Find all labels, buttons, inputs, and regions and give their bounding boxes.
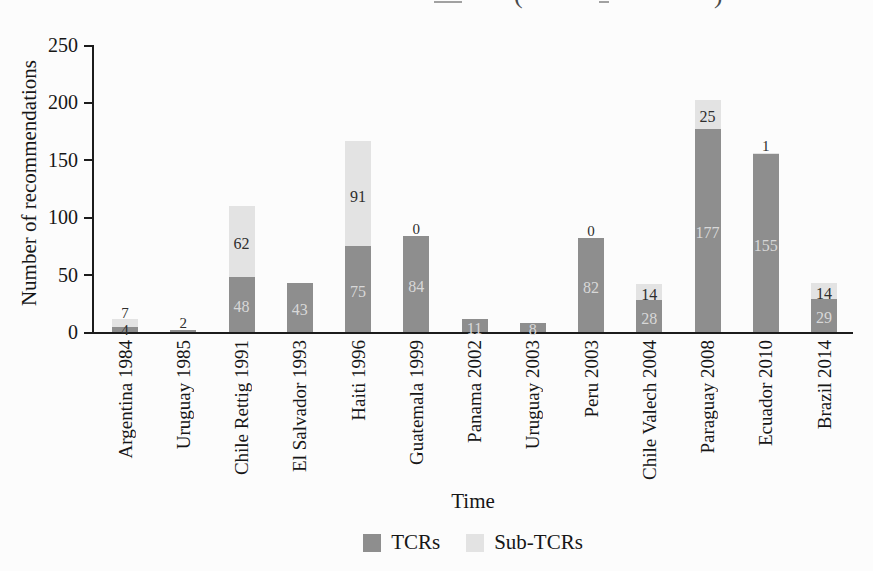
cropped-title-fragments: () bbox=[0, 0, 873, 9]
value-label-tcrs-guatemala-1999: 84 bbox=[393, 279, 439, 295]
cropped-paren-open: ( bbox=[514, 0, 523, 9]
value-label-tcrs-argentina-1984: 4 bbox=[102, 323, 148, 338]
value-label-tcrs-peru-2003: 82 bbox=[568, 280, 614, 296]
value-label-sub-tcrs-brazil-2014: 14 bbox=[801, 286, 847, 302]
value-label-tcrs-haiti-1996: 75 bbox=[335, 284, 381, 300]
y-tick-label-250: 250 bbox=[24, 34, 78, 57]
y-tick-250 bbox=[84, 45, 92, 47]
y-tick-150 bbox=[84, 159, 92, 161]
value-label-sub-tcrs-peru-2003: 0 bbox=[568, 224, 614, 239]
value-label-tcrs-uruguay-1985: 2 bbox=[160, 316, 206, 331]
value-label-sub-tcrs-paraguay-2008: 25 bbox=[685, 109, 731, 125]
x-category-label-guatemala-1999: Guatemala 1999 bbox=[405, 340, 428, 465]
x-category-label-brazil-2014: Brazil 2014 bbox=[813, 340, 836, 429]
value-label-tcrs-panama-2002: 11 bbox=[452, 321, 498, 337]
value-label-sub-tcrs-ecuador-2010: 1 bbox=[743, 139, 789, 154]
sub-tcrs-swatch-icon bbox=[466, 534, 484, 552]
y-tick-label-0: 0 bbox=[24, 321, 78, 344]
y-tick-100 bbox=[84, 217, 92, 219]
y-tick-label-50: 50 bbox=[24, 264, 78, 287]
legend-item-tcrs: TCRs bbox=[363, 530, 440, 555]
chart-figure: () Number of recommendations 05010015020… bbox=[0, 0, 873, 571]
value-label-tcrs-brazil-2014: 29 bbox=[801, 310, 847, 326]
x-category-label-argentina-1984: Argentina 1984 bbox=[114, 340, 137, 458]
value-label-tcrs-ecuador-2010: 155 bbox=[743, 238, 789, 254]
value-label-tcrs-chile-valech-2004: 28 bbox=[626, 311, 672, 327]
value-label-sub-tcrs-chile-rettig-1991: 62 bbox=[219, 236, 265, 252]
value-label-sub-tcrs-guatemala-1999: 0 bbox=[393, 222, 439, 237]
x-category-label-uruguay-1985: Uruguay 1985 bbox=[172, 340, 195, 449]
value-label-sub-tcrs-argentina-1984: 7 bbox=[102, 306, 148, 321]
value-label-tcrs-chile-rettig-1991: 48 bbox=[219, 299, 265, 315]
cropped-text-mark-0 bbox=[434, 1, 462, 3]
y-tick-0 bbox=[84, 332, 92, 334]
value-label-sub-tcrs-haiti-1996: 91 bbox=[335, 189, 381, 205]
value-label-tcrs-el-salvador-1993: 43 bbox=[277, 302, 323, 318]
legend-item-sub-tcrs: Sub-TCRs bbox=[466, 530, 583, 555]
x-category-label-chile-rettig-1991: Chile Rettig 1991 bbox=[230, 340, 253, 475]
x-category-label-el-salvador-1993: El Salvador 1993 bbox=[288, 340, 311, 472]
y-axis-line bbox=[92, 45, 94, 334]
cropped-text-mark-1 bbox=[599, 1, 609, 3]
x-category-label-uruguay-2003: Uruguay 2003 bbox=[521, 340, 544, 449]
y-tick-label-150: 150 bbox=[24, 149, 78, 172]
legend: TCRs Sub-TCRs bbox=[92, 530, 854, 555]
legend-label-tcrs: TCRs bbox=[391, 530, 440, 555]
x-category-label-paraguay-2008: Paraguay 2008 bbox=[696, 340, 719, 453]
x-category-label-peru-2003: Peru 2003 bbox=[580, 340, 603, 418]
y-tick-50 bbox=[84, 274, 92, 276]
y-tick-200 bbox=[84, 102, 92, 104]
value-label-tcrs-paraguay-2008: 177 bbox=[685, 225, 731, 241]
x-axis-title: Time bbox=[92, 489, 854, 514]
x-category-label-chile-valech-2004: Chile Valech 2004 bbox=[638, 340, 661, 480]
y-tick-label-100: 100 bbox=[24, 206, 78, 229]
x-category-label-ecuador-2010: Ecuador 2010 bbox=[754, 340, 777, 446]
value-label-tcrs-uruguay-2003: 8 bbox=[510, 322, 556, 338]
y-tick-label-200: 200 bbox=[24, 91, 78, 114]
x-category-label-panama-2002: Panama 2002 bbox=[463, 340, 486, 443]
legend-label-sub-tcrs: Sub-TCRs bbox=[494, 530, 583, 555]
tcrs-swatch-icon bbox=[363, 534, 381, 552]
x-category-label-haiti-1996: Haiti 1996 bbox=[347, 340, 370, 421]
cropped-paren-close: ) bbox=[714, 0, 723, 9]
value-label-sub-tcrs-chile-valech-2004: 14 bbox=[626, 287, 672, 303]
